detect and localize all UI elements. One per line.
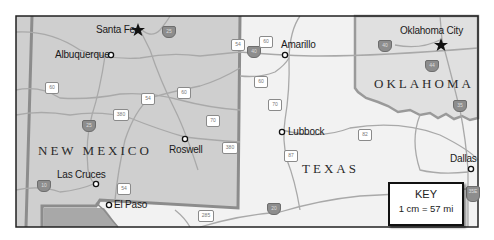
interstate-shield-40-ok: 40 — [378, 40, 392, 52]
interstate-shield-20: 20 — [267, 203, 281, 215]
us-shield-70-nm: 70 — [206, 115, 220, 127]
us-shield-60-nm-center: 60 — [177, 87, 191, 99]
dallas-marker — [468, 166, 473, 171]
us-shield-82: 82 — [358, 129, 372, 141]
key-scale: 1 cm = 57 mi — [390, 204, 462, 214]
us-shield-87: 87 — [284, 150, 298, 162]
amarillo-marker — [282, 52, 287, 57]
us-shield-60-nm-west: 60 — [45, 82, 59, 94]
city-label-las-cruces: Las Cruces — [57, 170, 106, 180]
interstate-shield-40-west: 40 — [247, 46, 261, 58]
map-key: KEY 1 cm = 57 mi — [388, 182, 464, 226]
state-label-texas: TEXAS — [302, 162, 359, 175]
las-cruces-marker — [93, 181, 98, 186]
city-label-albuquerque: Albuquerque — [55, 50, 110, 60]
city-label-santa-fe: Santa Fe — [96, 25, 135, 35]
roswell-marker — [182, 136, 187, 141]
us-shield-70-tx: 70 — [268, 99, 282, 111]
interstate-shield-44: 44 — [425, 60, 439, 72]
city-label-dallas: Dallas — [450, 154, 477, 164]
city-label-roswell: Roswell — [169, 145, 203, 155]
el-paso-marker — [106, 202, 111, 207]
lubbock-marker — [279, 129, 284, 134]
city-label-lubbock: Lubbock — [288, 127, 324, 137]
key-title: KEY — [390, 189, 462, 200]
us-shield-60-amarillo: 60 — [259, 36, 273, 48]
interstate-shield-25-north: 25 — [162, 26, 176, 38]
state-label-new-mexico: NEW MEXICO — [38, 144, 152, 157]
interstate-shield-25-south: 25 — [82, 120, 96, 132]
us-shield-60-tx: 60 — [254, 76, 268, 88]
interstate-shield-35-ok: 35 — [453, 100, 467, 112]
us-shield-54-south: 54 — [117, 183, 131, 195]
interstate-shield-10: 10 — [37, 180, 51, 192]
us-shield-54-north: 54 — [231, 39, 245, 51]
city-label-el-paso: El Paso — [114, 200, 147, 210]
interstate-shield-35e: 35E — [466, 186, 480, 202]
us-shield-285: 285 — [198, 210, 214, 222]
city-label-amarillo: Amarillo — [281, 40, 316, 50]
us-shield-380-nm-west: 380 — [113, 109, 129, 121]
us-shield-54-nm-center: 54 — [141, 93, 155, 105]
state-label-oklahoma: OKLAHOMA — [374, 77, 474, 90]
us-shield-380-nm-east: 380 — [222, 142, 238, 154]
city-label-oklahoma-city: Oklahoma City — [400, 26, 463, 36]
